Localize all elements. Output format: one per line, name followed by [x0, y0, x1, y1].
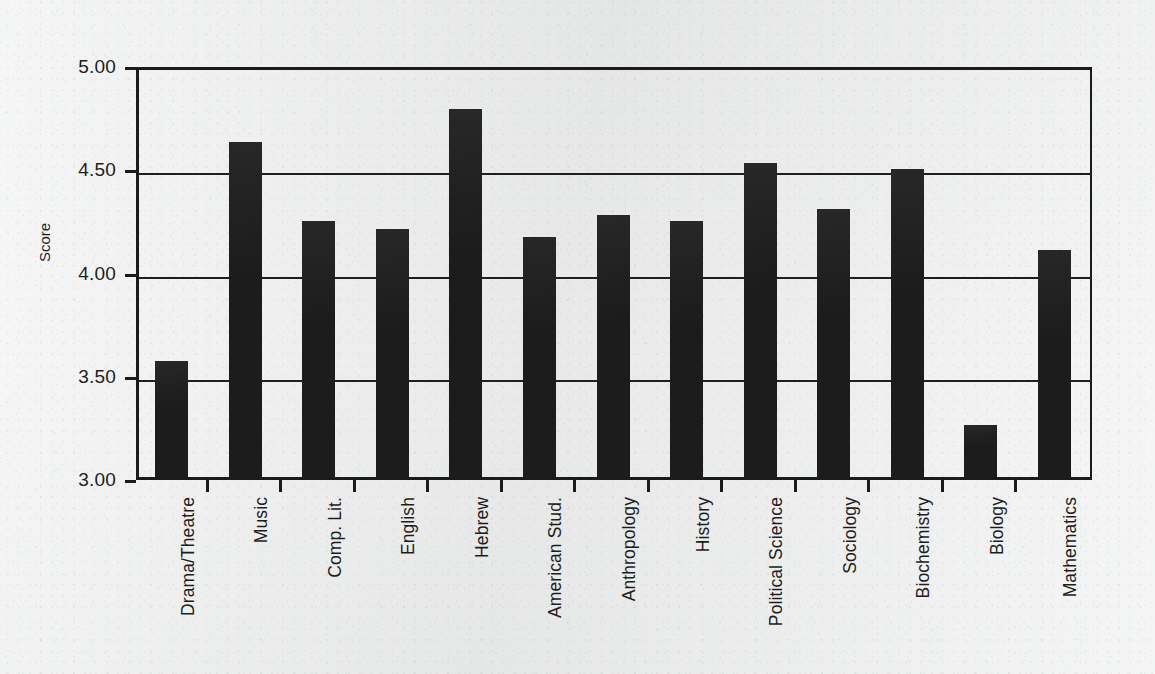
x-axis-tick-mark	[573, 480, 576, 492]
x-axis-tick-label: Biochemistry	[913, 497, 934, 598]
x-axis-tick-label: Political Science	[766, 497, 787, 626]
y-axis-tick-label: 4.00	[46, 263, 116, 285]
scanned-bar-chart-page: Score 5.004.504.003.503.00 Drama/Theatre…	[0, 0, 1155, 674]
bar	[964, 425, 997, 477]
bar	[229, 142, 262, 477]
x-axis-tick-label: Drama/Theatre	[178, 497, 199, 616]
x-axis-tick-mark	[206, 480, 209, 492]
x-axis-tick-mark	[794, 480, 797, 492]
x-axis-tick-mark	[941, 480, 944, 492]
y-axis-tick-label: 3.50	[46, 366, 116, 388]
x-axis-tick-label: English	[398, 497, 419, 555]
y-axis-title: Score	[36, 223, 53, 262]
bar	[744, 163, 777, 477]
x-axis-tick-label: American Stud.	[545, 497, 566, 618]
y-axis-tick-label: 5.00	[46, 56, 116, 78]
y-axis-tick-mark	[125, 274, 136, 277]
x-axis-tick-mark	[647, 480, 650, 492]
x-axis-tick-mark	[867, 480, 870, 492]
x-axis-tick-mark	[500, 480, 503, 492]
plot-area	[136, 67, 1092, 480]
x-axis-tick-mark	[279, 480, 282, 492]
x-axis-tick-label: Mathematics	[1060, 497, 1081, 597]
y-axis-tick-mark	[125, 67, 136, 70]
x-axis-tick-mark	[353, 480, 356, 492]
bar	[891, 169, 924, 477]
y-axis-tick-label: 4.50	[46, 159, 116, 181]
bar	[597, 215, 630, 477]
y-axis-tick-mark	[125, 480, 136, 483]
x-axis-tick-label: Anthropology	[619, 497, 640, 601]
x-axis-tick-mark	[1014, 480, 1017, 492]
y-axis-tick-mark	[125, 170, 136, 173]
y-axis-tick-label: 3.00	[46, 469, 116, 491]
x-axis-tick-label: Hebrew	[472, 497, 493, 558]
bar	[376, 229, 409, 477]
bar	[817, 209, 850, 477]
x-axis-tick-label: Music	[251, 497, 272, 543]
x-axis-tick-label: Comp. Lit.	[325, 497, 346, 578]
x-axis-tick-label: History	[693, 497, 714, 552]
bar	[1038, 250, 1071, 477]
x-axis-tick-mark	[426, 480, 429, 492]
bar	[155, 361, 188, 477]
bar	[302, 221, 335, 477]
x-axis-tick-label: Sociology	[840, 497, 861, 574]
gridline	[139, 173, 1090, 175]
y-axis-tick-mark	[125, 377, 136, 380]
bar	[449, 109, 482, 477]
bar	[670, 221, 703, 477]
x-axis-tick-mark	[720, 480, 723, 492]
bar	[523, 237, 556, 477]
x-axis-tick-label: Biology	[987, 497, 1008, 555]
